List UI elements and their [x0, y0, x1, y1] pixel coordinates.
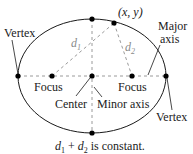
- d1-label: d1: [71, 36, 81, 52]
- minor-axis-label: Minor axis: [97, 97, 150, 111]
- right-vertex-point: [163, 73, 168, 78]
- d2-label: d2: [125, 40, 135, 56]
- center-label: Center: [55, 97, 87, 111]
- center-point: [89, 73, 94, 78]
- caption: d1 + d2 is constant.: [55, 139, 145, 154]
- major-axis-label-line2: axis: [160, 32, 180, 46]
- major-axis-leader: [148, 45, 160, 75]
- focus-right-label: Focus: [118, 80, 147, 94]
- left-focus-point: [49, 73, 54, 78]
- top-covertex-point: [89, 16, 94, 21]
- xy-label: (x, y): [118, 5, 143, 19]
- center-leader: [76, 78, 90, 96]
- right-focus-point: [129, 73, 134, 78]
- vertex-left-label: Vertex: [4, 26, 35, 40]
- vertex-right-label: Vertex: [156, 110, 187, 124]
- bottom-covertex-point: [89, 130, 94, 135]
- major-axis-label-line1: Major: [158, 19, 187, 33]
- xy-point: [111, 20, 116, 25]
- minor-axis-leader: [94, 87, 102, 97]
- d1-line: [52, 23, 114, 76]
- left-vertex-point: [15, 73, 20, 78]
- vertex-right-leader: [167, 78, 172, 110]
- vertex-left-leader: [12, 40, 18, 74]
- ellipse-diagram: Vertex (x, y) Major axis d1 d2 Focus Foc…: [0, 0, 193, 154]
- focus-left-label: Focus: [34, 80, 63, 94]
